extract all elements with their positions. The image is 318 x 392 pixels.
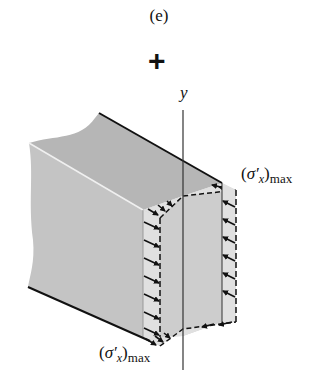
panel-label: (e): [0, 6, 318, 26]
left-stress-block: [143, 210, 160, 346]
max-stress-label-top: (σ′x)max: [241, 164, 292, 184]
plus-sign: +: [148, 46, 166, 76]
max-stress-label-bottom: (σ′x)max: [99, 343, 150, 363]
y-axis-label: y: [180, 83, 188, 103]
